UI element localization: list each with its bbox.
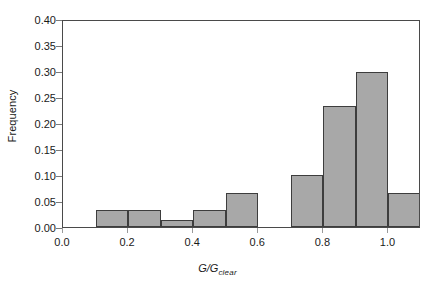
y-axis-tick-label: 0.30 bbox=[20, 67, 56, 78]
y-axis-tick-label: 0.40 bbox=[20, 15, 56, 26]
histogram-bar bbox=[388, 193, 420, 227]
y-axis-tick-mark bbox=[56, 202, 62, 203]
histogram-bar bbox=[128, 210, 161, 227]
x-axis-tick-label: 1.0 bbox=[380, 236, 395, 248]
y-axis-tick-label: 0.20 bbox=[20, 119, 56, 130]
y-axis-tick-mark bbox=[56, 72, 62, 73]
histogram-bar bbox=[193, 210, 226, 227]
y-axis-tick-label: 0.10 bbox=[20, 171, 56, 182]
bars-layer bbox=[63, 21, 419, 227]
x-axis-tick-label: 0.4 bbox=[185, 236, 200, 248]
x-axis-tick-mark bbox=[62, 228, 63, 233]
y-axis-tick-label: 0.00 bbox=[20, 223, 56, 234]
histogram-bar bbox=[161, 220, 194, 227]
histogram-bar bbox=[291, 175, 324, 227]
histogram-bar bbox=[226, 193, 259, 227]
y-axis-tick-mark bbox=[56, 124, 62, 125]
x-axis-tick-label: 0.0 bbox=[54, 236, 69, 248]
plot-area bbox=[62, 20, 420, 228]
x-axis-tick-mark bbox=[322, 228, 323, 233]
x-axis-title-subscript: clear bbox=[218, 268, 236, 277]
x-axis-tick-label: 0.8 bbox=[315, 236, 330, 248]
histogram-chart: Frequency 0.000.050.100.150.200.250.300.… bbox=[0, 0, 435, 293]
y-axis-tick-mark bbox=[56, 46, 62, 47]
histogram-bar bbox=[323, 106, 356, 227]
y-axis-tick-label: 0.25 bbox=[20, 93, 56, 104]
histogram-bar bbox=[96, 210, 129, 227]
y-axis-tick-labels: 0.000.050.100.150.200.250.300.350.40 bbox=[20, 0, 56, 293]
y-axis-tick-label: 0.15 bbox=[20, 145, 56, 156]
x-axis-tick-label: 0.6 bbox=[250, 236, 265, 248]
x-axis-title: G/Gclear bbox=[0, 262, 435, 277]
x-axis-tick-mark bbox=[387, 228, 388, 233]
y-axis-tick-mark bbox=[56, 98, 62, 99]
histogram-bar bbox=[356, 72, 389, 227]
x-axis-tick-mark bbox=[192, 228, 193, 233]
y-axis-title-text: Frequency bbox=[6, 90, 18, 143]
x-axis-tick-label: 0.2 bbox=[119, 236, 134, 248]
y-axis-tick-mark bbox=[56, 176, 62, 177]
y-axis-tick-label: 0.05 bbox=[20, 197, 56, 208]
x-axis-tick-mark bbox=[127, 228, 128, 233]
y-axis-title: Frequency bbox=[0, 0, 24, 232]
y-axis-tick-label: 0.35 bbox=[20, 41, 56, 52]
y-axis-tick-mark bbox=[56, 20, 62, 21]
y-axis-tick-mark bbox=[56, 150, 62, 151]
x-axis-title-main: G/G bbox=[198, 262, 218, 274]
x-axis-tick-mark bbox=[257, 228, 258, 233]
